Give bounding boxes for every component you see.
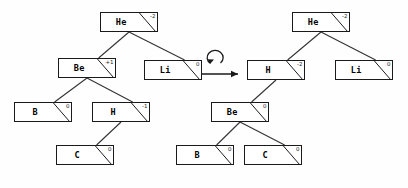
tree-edge: [217, 122, 240, 145]
diagram-canvas: He-2Be+1Li0B0H-1C0He-2H-2Li0Be0B0C0: [0, 0, 408, 188]
node-balance-factor: -2: [150, 14, 155, 20]
node-balance-factor: -2: [342, 14, 347, 20]
node-label: Be: [59, 59, 99, 77]
tree-edge: [97, 122, 121, 145]
tree-edge: [321, 32, 376, 60]
node-label: H: [248, 61, 288, 79]
node-label: H: [93, 103, 133, 121]
node-balance-factor: 0: [66, 104, 70, 110]
node-balance-factor: -2: [297, 62, 302, 68]
tree-edge: [129, 32, 185, 60]
node-label: He: [101, 13, 141, 31]
node-balance-factor: 0: [263, 104, 267, 110]
tree-node: C0: [56, 145, 114, 165]
node-label: Be: [212, 103, 252, 121]
node-balance-factor: -1: [142, 104, 147, 110]
node-balance-factor: 0: [296, 147, 300, 153]
node-label: B: [15, 103, 55, 121]
tree-node: H-2: [247, 60, 305, 80]
node-balance-factor: +1: [105, 60, 113, 66]
tree-edge: [55, 78, 87, 102]
tree-node: C0: [244, 145, 302, 165]
tree-edge: [240, 122, 285, 145]
tree-edge: [87, 78, 133, 102]
tree-node: He-2: [100, 12, 158, 32]
tree-node: Li0: [144, 60, 202, 80]
rotation-arrow-icon: [198, 48, 244, 82]
node-label: C: [57, 146, 97, 164]
tree-edge: [99, 32, 129, 58]
node-label: B: [177, 146, 217, 164]
node-balance-factor: 0: [387, 62, 391, 68]
tree-node: B0: [176, 145, 234, 165]
tree-node: Be+1: [58, 58, 116, 78]
node-balance-factor: 0: [228, 147, 232, 153]
tree-node: B0: [14, 102, 72, 122]
node-balance-factor: 0: [108, 147, 112, 153]
tree-node: Li0: [335, 60, 393, 80]
tree-node: H-1: [92, 102, 150, 122]
tree-node: He-2: [292, 12, 350, 32]
node-label: C: [245, 146, 285, 164]
node-label: Li: [336, 61, 376, 79]
node-label: He: [293, 13, 333, 31]
tree-node: Be0: [211, 102, 269, 122]
tree-edge: [288, 32, 321, 60]
tree-edge: [252, 80, 276, 102]
node-label: Li: [145, 61, 185, 79]
